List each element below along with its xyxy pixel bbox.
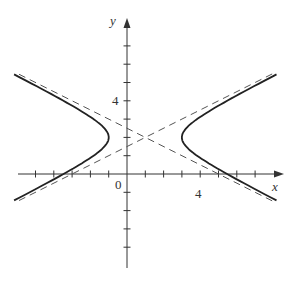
y-axis-arrow-icon	[124, 18, 131, 28]
asymptote-falling	[19, 74, 275, 202]
x-axis-label: x	[272, 180, 278, 193]
hyperbola-right-branch	[182, 74, 277, 200]
origin-label: 0	[115, 178, 122, 191]
asymptote-rising	[19, 72, 275, 200]
plot-area	[0, 0, 293, 293]
y-axis-label: y	[110, 14, 116, 27]
x-axis-arrow-icon	[274, 171, 284, 178]
y-tick-label-4: 4	[112, 94, 119, 107]
hyperbola-graph: y x 0 4 4	[0, 0, 293, 293]
hyperbola-left-branch	[14, 74, 109, 200]
x-tick-label-4: 4	[195, 187, 202, 200]
